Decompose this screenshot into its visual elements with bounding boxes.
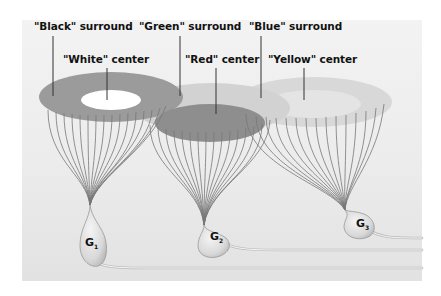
- label-white-center: "White" center: [63, 53, 149, 65]
- axons: [100, 232, 422, 268]
- receptive-field-2-center: [155, 104, 265, 142]
- cell-label-g3: G3: [356, 217, 369, 231]
- label-red-center: "Red" center: [185, 53, 259, 65]
- cell-subscript: 3: [365, 224, 369, 231]
- label-blue-surround: "Blue" surround: [249, 20, 342, 32]
- label-yellow-center: "Yellow" center: [268, 53, 357, 65]
- red-center-disc: [155, 104, 265, 142]
- receptive-field-diagram: "Black" surround "Green" surround "Blue"…: [0, 0, 441, 296]
- label-black-surround: "Black" surround: [34, 20, 133, 32]
- diagram-graphics: [0, 0, 441, 296]
- label-green-surround: "Green" surround: [139, 20, 241, 32]
- white-center-disc: [81, 90, 141, 110]
- cell-subscript: 1: [94, 243, 98, 250]
- cell-name: G: [210, 230, 219, 243]
- cell-label-g2: G2: [210, 230, 223, 244]
- cell-name: G: [85, 236, 94, 249]
- cell-subscript: 2: [219, 237, 223, 244]
- ganglion-cells: [80, 205, 374, 266]
- axon-g1: [100, 264, 422, 268]
- cell-name: G: [356, 217, 365, 230]
- cell-label-g1: G1: [85, 236, 98, 250]
